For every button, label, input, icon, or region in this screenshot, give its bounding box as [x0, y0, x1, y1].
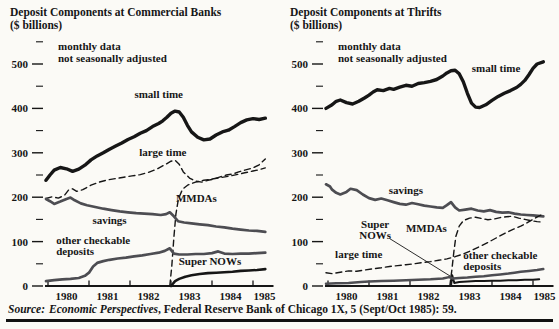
- y-tick-label-200: 200: [292, 191, 309, 203]
- series-savings-line: [46, 198, 265, 232]
- y-tick-label-300: 300: [12, 147, 29, 159]
- series-large-time-line: [46, 159, 265, 199]
- y-tick-label-100: 100: [292, 236, 309, 248]
- bottom-rule: [6, 319, 553, 322]
- y-tick-label-400: 400: [292, 102, 309, 114]
- series-savings-line: [326, 184, 543, 216]
- source-work-title: Economic Perspectives: [49, 303, 158, 315]
- series-other-checkable-deposits-label: other checkable: [463, 249, 537, 261]
- x-tick-label-1981: 1981: [376, 290, 398, 302]
- series-other-checkable-deposits-label: deposits: [56, 245, 95, 257]
- y-tick-label-100: 100: [12, 236, 29, 248]
- chart-commercial-banks: Deposit Components at Commercial Banks (…: [2, 2, 280, 302]
- series-super-nows-label: Super: [361, 218, 389, 230]
- x-tick-label-1980: 1980: [55, 290, 78, 302]
- x-tick-label-1983: 1983: [458, 290, 481, 302]
- x-tick-label-1982: 1982: [137, 290, 160, 302]
- y-tick-label-0: 0: [303, 280, 309, 292]
- series-savings-label: savings: [92, 214, 127, 226]
- x-tick-label-1984: 1984: [499, 290, 522, 302]
- chart-title: Deposit Components at Thrifts: [282, 2, 559, 19]
- series-super-nows-label: Super NOWs: [179, 255, 242, 267]
- series-mmdas-label: MMDAs: [176, 192, 218, 204]
- series-large-time-label: large time: [139, 146, 186, 158]
- y-tick-label-0: 0: [23, 280, 29, 292]
- x-tick-label-1980: 1980: [335, 290, 358, 302]
- series-super-nows-line: [171, 269, 265, 286]
- y-tick-label-500: 500: [292, 58, 309, 70]
- y-tick-label-200: 200: [12, 191, 29, 203]
- x-tick-label-1984: 1984: [219, 290, 242, 302]
- chart-thrifts: Deposit Components at Thrifts ($ billion…: [282, 2, 559, 302]
- chart-subtitle: ($ billions): [2, 19, 280, 32]
- x-tick-label-1985: 1985: [533, 290, 556, 302]
- series-small-time-label: small time: [472, 62, 521, 74]
- series-mmdas-label: MMDAs: [406, 222, 448, 234]
- line-plot-thrifts: 1980198119821983198419855004003002001000…: [282, 34, 559, 302]
- x-tick-label-1981: 1981: [96, 290, 118, 302]
- series-other-checkable-deposits-label: deposits: [463, 260, 502, 272]
- y-tick-label-400: 400: [12, 102, 29, 114]
- series-small-time-label: small time: [134, 88, 183, 100]
- super-nows-leader-line: [390, 238, 452, 277]
- y-tick-label-500: 500: [12, 58, 29, 70]
- series-savings-label: savings: [389, 184, 424, 196]
- chart-subtitle: ($ billions): [282, 19, 559, 32]
- x-tick-label-1983: 1983: [178, 290, 201, 302]
- series-large-time-label: large time: [335, 248, 382, 260]
- source-label: Source:: [8, 303, 45, 315]
- chart-title: Deposit Components at Commercial Banks: [2, 2, 280, 19]
- source-citation: Source:Economic Perspectives, Federal Re…: [8, 303, 556, 315]
- source-detail: , Federal Reserve Bank of Chicago 1X, 5 …: [158, 303, 457, 315]
- line-plot-commercial-banks: 1980198119821983198419855004003002001000…: [2, 34, 280, 302]
- x-tick-label-1985: 1985: [253, 290, 276, 302]
- y-tick-label-300: 300: [292, 147, 309, 159]
- series-other-checkable-deposits-label: other checkable: [56, 234, 130, 246]
- x-tick-label-1982: 1982: [417, 290, 440, 302]
- series-super-nows-label: NOWs: [359, 229, 392, 241]
